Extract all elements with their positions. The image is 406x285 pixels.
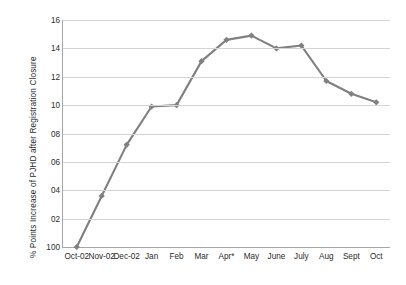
y-axis-tick-label: 08 — [51, 129, 60, 138]
gridline — [63, 134, 390, 135]
series-line — [77, 36, 377, 247]
y-axis-tick-label: 12 — [51, 72, 60, 81]
gridline — [63, 190, 390, 191]
y-axis-tick-label: 100 — [46, 243, 60, 252]
x-axis-tick-label: Apr* — [219, 252, 235, 261]
y-axis-tick-label: 10 — [51, 101, 60, 110]
x-axis-tick-label: Dec-02 — [113, 252, 139, 261]
gridline — [63, 48, 390, 49]
x-axis-tick-label: Aug — [319, 252, 334, 261]
x-axis-tick-label: Nov-02 — [88, 252, 114, 261]
y-axis-tick-label: 02 — [51, 214, 60, 223]
y-axis-tick-label: 16 — [51, 16, 60, 25]
gridline — [63, 20, 390, 21]
gridline — [63, 77, 390, 78]
y-axis-tick-label: 14 — [51, 44, 60, 53]
gridline — [63, 162, 390, 163]
x-axis-tick-label: Sept — [343, 252, 360, 261]
x-axis-tick-label: Mar — [194, 252, 208, 261]
chart-figure: % Points Increase of PJHD after Registra… — [0, 0, 406, 285]
gridline — [63, 105, 390, 106]
x-axis-tick-label: Jan — [145, 252, 158, 261]
x-axis-tick-label: Feb — [170, 252, 184, 261]
x-axis-tick-label: Oct-02 — [64, 252, 89, 261]
x-axis-tick-label: May — [244, 252, 259, 261]
y-axis-tick-label: 04 — [51, 186, 60, 195]
x-axis-tick-label: June — [268, 252, 286, 261]
x-axis-tick-label: July — [294, 252, 309, 261]
x-axis-tick-label: Oct — [370, 252, 383, 261]
gridline — [63, 219, 390, 220]
plot-area: 1000204060810121416Oct-02Nov-02Dec-02Jan… — [62, 20, 390, 248]
y-axis-title: % Points Increase of PJHD after Registra… — [26, 8, 42, 258]
y-axis-tick-label: 06 — [51, 157, 60, 166]
